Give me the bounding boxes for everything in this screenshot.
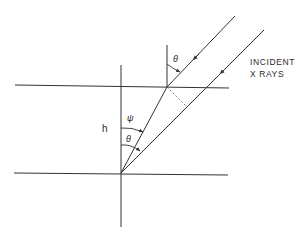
theta-bottom-label: θ bbox=[126, 135, 131, 144]
refracted-ray bbox=[121, 87, 167, 173]
incident-ray-1 bbox=[167, 16, 235, 87]
incident-ray-2 bbox=[121, 30, 264, 173]
psi-label: ψ bbox=[127, 114, 134, 123]
top-surface-line bbox=[15, 85, 229, 88]
caption-incident: INCIDENT bbox=[250, 58, 295, 67]
xray-geometry-diagram bbox=[0, 0, 301, 239]
direction-arrow-ray-1 bbox=[193, 54, 199, 60]
theta-bottom-arc bbox=[121, 145, 140, 151]
wavefront-dashed-line bbox=[167, 87, 186, 106]
theta-top-label: θ bbox=[173, 55, 178, 64]
height-label: h bbox=[102, 124, 108, 134]
psi-arc bbox=[121, 128, 143, 132]
caption-x-rays: X RAYS bbox=[250, 70, 284, 79]
theta-top-arc bbox=[167, 64, 180, 72]
direction-arrow-ray-2 bbox=[220, 68, 226, 74]
